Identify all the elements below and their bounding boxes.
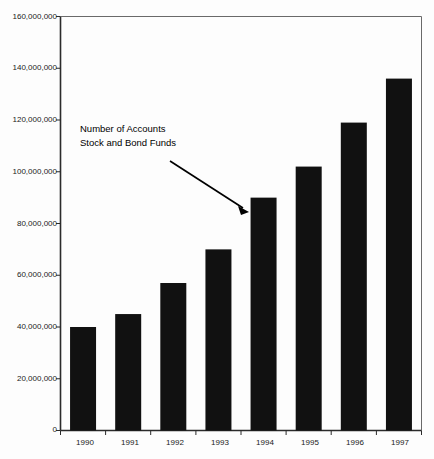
bar-chart: 160,000,000 140,000,000 120,000,000 100,…	[0, 0, 434, 459]
annotation-arrow	[170, 161, 249, 215]
bar-1995	[296, 167, 322, 431]
bar-1996	[341, 123, 367, 431]
bar-series	[70, 79, 412, 431]
chart-canvas	[0, 0, 434, 459]
bar-1993	[205, 249, 231, 430]
bar-1992	[160, 283, 186, 430]
bar-1990	[70, 327, 96, 431]
bar-1994	[251, 198, 277, 431]
plot-frame	[61, 17, 422, 431]
bar-1991	[115, 314, 141, 430]
bar-1997	[386, 79, 412, 431]
